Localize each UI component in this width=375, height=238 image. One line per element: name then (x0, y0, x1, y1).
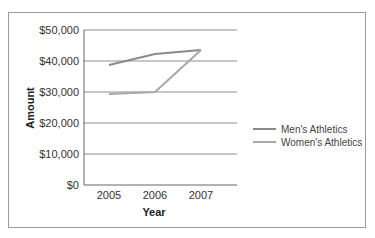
x-tick: 2006 (143, 189, 167, 201)
legend-label-womens: Women's Athletics (281, 137, 362, 148)
x-axis-title: Year (142, 206, 166, 218)
y-tick: $20,000 (39, 117, 79, 129)
x-tick: 2007 (189, 189, 213, 201)
legend: Men's Athletics Women's Athletics (253, 124, 362, 148)
x-tick: 2005 (97, 189, 121, 201)
series-womens-athletics (109, 50, 201, 94)
line-chart: $0 $10,000 $20,000 $30,000 $40,000 $50,0… (0, 0, 375, 238)
y-tick: $0 (67, 179, 79, 191)
gridlines (84, 30, 237, 154)
y-tick: $50,000 (39, 24, 79, 36)
legend-label-mens: Men's Athletics (281, 124, 347, 135)
y-tick: $40,000 (39, 55, 79, 67)
y-tick: $30,000 (39, 86, 79, 98)
y-axis-title: Amount (24, 87, 36, 129)
y-tick: $10,000 (39, 148, 79, 160)
